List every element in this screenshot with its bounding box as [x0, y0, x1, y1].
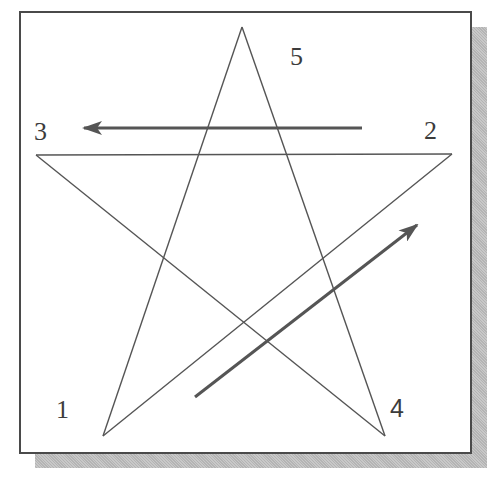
- star-diagram: [0, 0, 489, 487]
- edge-5-1: [103, 27, 242, 436]
- edge-3-4: [36, 155, 385, 436]
- vertex-label-2: 2: [424, 118, 437, 144]
- edge-2-3: [36, 154, 452, 155]
- edge-4-5: [242, 27, 385, 436]
- vertex-label-1: 1: [56, 397, 69, 423]
- vertex-label-4: 4: [390, 396, 404, 421]
- vertex-label-3: 3: [34, 119, 47, 145]
- star-lines: [36, 27, 452, 436]
- arrow-1-to-2: [195, 225, 417, 397]
- vertex-label-5: 5: [290, 44, 303, 70]
